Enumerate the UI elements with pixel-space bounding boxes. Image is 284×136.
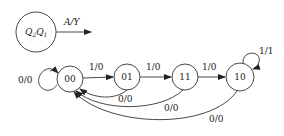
state-10-label: 10 <box>234 72 246 82</box>
transition-10-10 <box>243 53 259 69</box>
transition-00-00-label: 0/0 <box>18 75 33 85</box>
state-01-label: 01 <box>121 72 132 82</box>
transition-11-10-label: 1/0 <box>202 62 217 72</box>
transition-01-11-label: 1/0 <box>146 62 161 72</box>
state-01: 01 <box>114 64 140 90</box>
state-11-label: 11 <box>179 72 190 82</box>
transition-11-00-label: 0/0 <box>164 103 179 113</box>
state-10: 10 <box>226 63 254 91</box>
state-11: 11 <box>172 64 198 90</box>
transition-00-00-arrowhead <box>50 70 58 73</box>
legend-transition-label: A/Y <box>63 17 81 27</box>
state-diagram: Q2Q1 A/Y 00 01 11 10 0/0 1/0 1/0 1/0 1/1… <box>0 0 284 136</box>
transition-01-00-label: 0/0 <box>118 94 133 104</box>
legend-state-label: Q2Q1 <box>25 27 47 38</box>
transition-10-10-label: 1/1 <box>259 46 273 56</box>
state-00: 00 <box>57 66 83 92</box>
transition-00-00 <box>39 69 58 91</box>
transition-00-01 <box>83 77 113 78</box>
state-00-label: 00 <box>64 74 76 84</box>
transition-00-01-label: 1/0 <box>89 62 104 72</box>
transition-10-00-label: 0/0 <box>209 114 224 124</box>
legend: Q2Q1 A/Y <box>16 12 91 52</box>
